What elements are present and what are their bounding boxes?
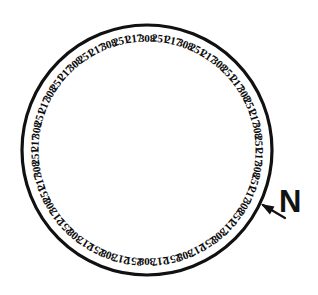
ring-outline-circle — [22, 25, 272, 275]
circular-label-diagram: 3082512173082512173082512173082512173082… — [0, 0, 318, 295]
ring-label: 217 — [125, 31, 143, 45]
north-arrow-head — [261, 204, 275, 215]
ring-svg: 3082512173082512173082512173082512173082… — [0, 0, 318, 295]
north-label: N — [279, 186, 301, 217]
